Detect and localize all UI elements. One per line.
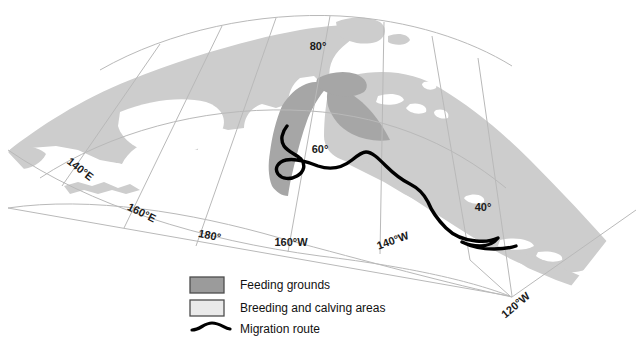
lon-label-160W: 160°W	[274, 236, 308, 248]
legend-swatch-feeding-grounds	[190, 277, 224, 293]
map-legend: Feeding grounds Breeding and calving are…	[190, 277, 385, 336]
interior-gap-a	[206, 136, 242, 153]
lon-label-180: 180°	[197, 227, 222, 243]
lat-label-80: 80°	[310, 40, 327, 52]
map-canvas: 80° 60° 40° 140°E 160°E 180° 160°W 140°W…	[0, 0, 637, 349]
legend-label-feeding-grounds: Feeding grounds	[240, 278, 330, 292]
arctic-island-small	[388, 34, 410, 45]
lat-label-40: 40°	[475, 201, 492, 213]
lat-label-60: 60°	[312, 143, 329, 155]
interior-gap-c	[94, 162, 130, 176]
feeding-grounds-chukchi	[316, 72, 366, 97]
legend-label-migration-route: Migration route	[240, 322, 320, 336]
legend-swatch-breeding-areas	[190, 300, 224, 316]
legend-symbol-migration-route	[192, 323, 230, 330]
lon-label-160E: 160°E	[126, 200, 158, 224]
legend-label-breeding-areas: Breeding and calving areas	[240, 301, 385, 315]
legend-item-feeding-grounds: Feeding grounds	[190, 277, 330, 293]
legend-item-breeding-areas: Breeding and calving areas	[190, 300, 385, 316]
left-peninsula	[8, 147, 46, 170]
interior-gap-b	[162, 159, 200, 174]
migration-map: 80° 60° 40° 140°E 160°E 180° 160°W 140°W…	[0, 0, 637, 349]
legend-item-migration-route: Migration route	[192, 322, 320, 336]
